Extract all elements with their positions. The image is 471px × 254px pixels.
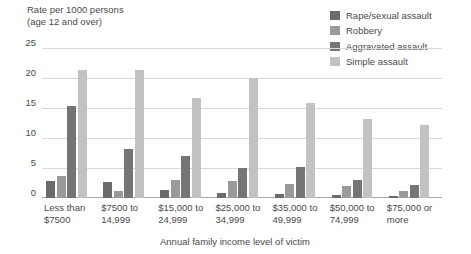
- bar[interactable]: [192, 98, 201, 198]
- bar[interactable]: [217, 193, 226, 198]
- legend-label: Rape/sexual assault: [346, 10, 432, 21]
- bar-group: [389, 48, 430, 198]
- x-tick-label: $15,000 to 24,999: [158, 202, 203, 226]
- legend-item[interactable]: Rape/sexual assault: [330, 8, 432, 22]
- x-axis-tick-labels: Less than $7500$7500 to 14,999$15,000 to…: [42, 202, 442, 234]
- bar[interactable]: [171, 180, 180, 198]
- bar-group: [275, 48, 316, 198]
- x-tick-label: Less than $7500: [44, 202, 85, 226]
- x-axis-title: Annual family income level of victim: [160, 236, 310, 247]
- x-tick-label: $25,000 to 34,999: [215, 202, 260, 226]
- bar-groups: [42, 48, 442, 198]
- bar[interactable]: [410, 185, 419, 198]
- x-tick-label: $7500 to 14,999: [101, 202, 138, 226]
- bar[interactable]: [342, 186, 351, 198]
- y-axis-title: Rate per 1000 persons (age 12 and over): [27, 4, 124, 27]
- legend-swatch-icon: [330, 26, 340, 35]
- y-tick-label: 10: [2, 127, 36, 138]
- legend-item[interactable]: Robbery: [330, 24, 432, 38]
- y-tick-label: 0: [2, 187, 36, 198]
- bar-group: [103, 48, 144, 198]
- bar[interactable]: [228, 181, 237, 198]
- bar-group: [332, 48, 373, 198]
- bar[interactable]: [249, 78, 258, 198]
- bar[interactable]: [181, 156, 190, 198]
- bar[interactable]: [389, 196, 398, 198]
- x-tick-label: $75,000 or more: [387, 202, 432, 226]
- bar[interactable]: [78, 70, 87, 198]
- bar[interactable]: [296, 167, 305, 198]
- legend-label: Robbery: [346, 25, 382, 36]
- bar[interactable]: [57, 176, 66, 198]
- bar[interactable]: [399, 191, 408, 198]
- bar[interactable]: [363, 119, 372, 198]
- y-tick-label: 20: [2, 67, 36, 78]
- x-tick-label: $50,000 to 74,999: [330, 202, 375, 226]
- bar[interactable]: [285, 184, 294, 198]
- y-tick-label: 25: [2, 37, 36, 48]
- bar[interactable]: [275, 194, 284, 198]
- bar[interactable]: [114, 191, 123, 198]
- bar[interactable]: [353, 180, 362, 198]
- bar-chart: Rate per 1000 persons (age 12 and over) …: [0, 0, 471, 254]
- legend-swatch-icon: [330, 11, 340, 20]
- bar-group: [160, 48, 201, 198]
- y-tick-label: 5: [2, 157, 36, 168]
- bar-group: [46, 48, 87, 198]
- x-tick-label: $35,000 to 49,999: [273, 202, 318, 226]
- bar[interactable]: [124, 149, 133, 198]
- bar[interactable]: [67, 106, 76, 198]
- bar-group: [217, 48, 258, 198]
- bar[interactable]: [103, 182, 112, 198]
- bar[interactable]: [420, 125, 429, 198]
- bar[interactable]: [135, 70, 144, 198]
- bar[interactable]: [160, 190, 169, 198]
- bar[interactable]: [238, 168, 247, 198]
- bar[interactable]: [46, 181, 55, 198]
- y-tick-label: 15: [2, 97, 36, 108]
- bar[interactable]: [306, 103, 315, 198]
- bar[interactable]: [332, 195, 341, 198]
- y-axis-tick-labels: 2520151050: [0, 48, 36, 198]
